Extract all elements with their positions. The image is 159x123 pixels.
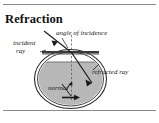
label-incident-ray-line2: ray [16,47,25,55]
label-normal: normal [48,84,68,92]
refraction-diagram [0,0,159,123]
incident-ray-arrowhead [52,41,59,47]
figure-card: Refraction [0,0,159,123]
bottom-divider-rule [3,110,156,111]
label-angle-of-incidence: angle of incidence [56,29,107,37]
label-incident-ray-line1: incident [13,39,36,47]
label-refracted-ray: refracted ray [92,68,128,76]
